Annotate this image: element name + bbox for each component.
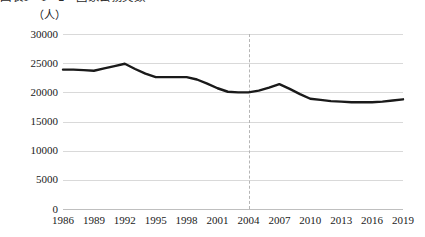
y-axis-tick-label: 20000 xyxy=(12,87,58,98)
y-axis-tick-label: 5000 xyxy=(12,174,58,185)
x-axis-tick-label: 1995 xyxy=(145,213,167,227)
y-axis-tick-label: 30000 xyxy=(12,29,58,40)
x-axis-tick-labels: 1986198919921995199820012004200720102013… xyxy=(63,213,403,231)
x-axis-tick-label: 2010 xyxy=(299,213,321,227)
x-axis-tick-label: 1989 xyxy=(83,213,105,227)
x-axis-tick-label: 1986 xyxy=(52,213,74,227)
series-line xyxy=(63,34,403,209)
x-axis-tick-label: 2001 xyxy=(207,213,229,227)
x-axis-tick-label: 1992 xyxy=(114,213,136,227)
y-axis-unit-label: （人） xyxy=(33,9,66,22)
plot-area xyxy=(63,34,403,209)
gridline xyxy=(63,209,403,210)
chart-figure: 図表1－1－2 国家公務員数 （人） 050001000015000200002… xyxy=(0,0,425,237)
y-axis-tick-labels: 050001000015000200002500030000 xyxy=(8,34,58,209)
x-axis-tick-label: 2004 xyxy=(238,213,260,227)
x-axis-tick-label: 2019 xyxy=(392,213,414,227)
x-axis-tick-label: 2007 xyxy=(268,213,290,227)
x-axis-tick-label: 2013 xyxy=(330,213,352,227)
y-axis-tick-label: 10000 xyxy=(12,145,58,156)
x-axis-tick-label: 1998 xyxy=(176,213,198,227)
y-axis-tick-label: 15000 xyxy=(12,116,58,127)
x-axis-tick-label: 2016 xyxy=(361,213,383,227)
y-axis-tick-label: 25000 xyxy=(12,58,58,69)
chart-title: 図表1－1－2 国家公務員数 xyxy=(0,0,425,4)
